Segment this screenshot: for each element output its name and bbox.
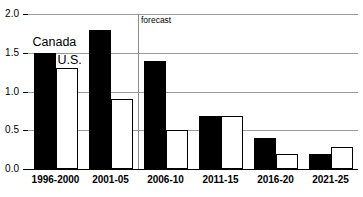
bar-canada-2011-15 [199, 116, 221, 169]
bar-canada-2021-25 [309, 154, 331, 169]
y-tick-label: 1.0 [0, 87, 19, 97]
y-tick-label: 1.5 [0, 48, 19, 58]
bar-canada-1996-2000 [34, 53, 56, 169]
x-category-label-2021-25: 2021-25 [303, 174, 358, 186]
bar-canada-2016-20 [254, 138, 276, 169]
x-category-label-1996-2000: 1996-2000 [28, 174, 83, 186]
bar-us-2001-05 [111, 99, 133, 169]
gridline [28, 14, 358, 15]
bar-us-2011-15 [221, 116, 243, 169]
bar-canada-2001-05 [89, 30, 111, 170]
bar-us-2016-20 [276, 154, 298, 170]
series-label-us: U.S. [57, 54, 83, 67]
gridline [28, 130, 358, 131]
y-axis: 2.01.51.00.50.0 [0, 14, 28, 169]
x-category-label-2011-15: 2011-15 [193, 174, 248, 186]
bar-canada-2006-10 [144, 61, 166, 170]
y-tick-label: 0.5 [0, 125, 19, 135]
y-tick-label: 2.0 [0, 9, 19, 19]
y-tick-label: 0.0 [0, 164, 19, 174]
gridline [28, 92, 358, 93]
chart-title-cropped [0, 0, 363, 7]
forecast-label: forecast [141, 16, 171, 25]
bar-us-2006-10 [166, 130, 188, 169]
x-category-label-2016-20: 2016-20 [248, 174, 303, 186]
series-label-canada: Canada [32, 36, 78, 49]
bar-chart: 2.01.51.00.50.0 forecastCanadaU.S. 1996-… [0, 0, 363, 197]
bar-us-1996-2000 [56, 68, 78, 169]
x-axis-baseline [28, 169, 358, 170]
x-category-label-2006-10: 2006-10 [138, 174, 193, 186]
plot-area: forecastCanadaU.S. [28, 14, 358, 169]
forecast-divider-line [138, 14, 139, 169]
x-category-label-2001-05: 2001-05 [83, 174, 138, 186]
bar-us-2021-25 [331, 147, 353, 169]
x-axis: 1996-20002001-052006-102011-152016-20202… [28, 174, 358, 190]
